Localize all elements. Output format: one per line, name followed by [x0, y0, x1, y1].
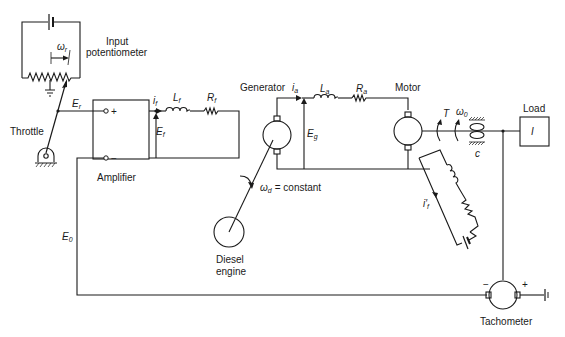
amplifier: + −	[58, 100, 149, 164]
throttle-label: Throttle	[10, 126, 44, 137]
i-f-prime-label: i′f	[423, 198, 430, 210]
control-system-diagram: ωr Input potentiometer Throttle Er + − A…	[0, 0, 565, 337]
omega-0-label: ω0	[456, 106, 468, 118]
l-a-label: La	[320, 83, 330, 95]
damping-label: c	[475, 148, 480, 159]
throttle-lever	[35, 79, 67, 167]
torque-label: T	[443, 108, 450, 119]
generator	[263, 95, 430, 169]
amplifier-label: Amplifier	[97, 172, 137, 183]
motor-label: Motor	[395, 82, 421, 93]
i-f-label: if	[153, 95, 158, 107]
tachometer-label: Tachometer	[480, 316, 533, 327]
motor-field-circuit	[419, 150, 478, 249]
load-label: Load	[523, 103, 545, 114]
input-potentiometer: ωr	[22, 14, 80, 96]
armature-inductor	[314, 95, 338, 98]
armature-circuit	[302, 95, 408, 110]
e-0-label: E0	[62, 231, 73, 243]
diesel-engine	[214, 140, 273, 247]
amplifier-minus-terminal: −	[111, 153, 117, 164]
motor-field-resistor	[460, 190, 478, 232]
diesel-engine-label-1: Diesel	[216, 254, 244, 265]
motor-field-inductor	[447, 165, 460, 190]
l-f-label: Lf	[173, 92, 182, 104]
e-g-label: Eg	[307, 128, 318, 141]
potentiometer-resistor	[22, 73, 80, 81]
field-inductor	[166, 108, 190, 112]
r-f-label: Rf	[207, 92, 217, 104]
inertia-label: I	[531, 126, 534, 137]
motor	[394, 112, 520, 169]
input-potentiometer-label-1: Input	[106, 36, 128, 47]
omega-d-label: ωd= constant	[260, 182, 321, 194]
feedback-loop	[77, 131, 503, 295]
load-block	[520, 117, 549, 146]
diesel-engine-label-2: engine	[216, 266, 246, 277]
r-a-label: Ra	[356, 83, 367, 95]
e-r-label: Er	[72, 98, 82, 110]
e-f-label: Ef	[156, 126, 166, 138]
input-potentiometer-label-2: potentiometer	[86, 47, 148, 58]
tachometer-plus-terminal: +	[522, 279, 528, 290]
armature-resistor	[352, 95, 408, 110]
tachometer	[486, 281, 548, 309]
i-a-label: ia	[292, 82, 298, 94]
amplifier-plus-terminal: +	[111, 106, 117, 117]
omega-r-label: ωr	[57, 41, 68, 53]
tachometer-minus-terminal: −	[483, 279, 489, 290]
generator-label: Generator	[240, 82, 286, 93]
